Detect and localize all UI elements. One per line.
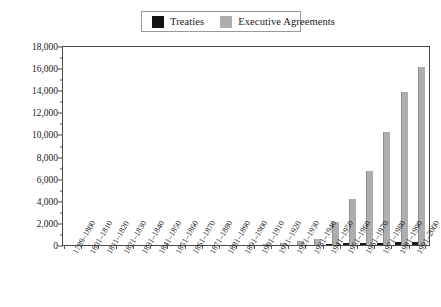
y-axis-tick-label: 4,000 <box>37 197 58 207</box>
bar-executive-agreements <box>418 67 425 246</box>
bar-group <box>186 47 203 246</box>
y-axis-tick-label: 6,000 <box>37 175 58 185</box>
bar-group <box>358 47 375 246</box>
bar-group <box>99 47 116 246</box>
bar-group <box>255 47 272 246</box>
x-axis-label-cell: 1911–1920 <box>271 250 288 307</box>
bar-group <box>82 47 99 246</box>
bar-chart: Treaties Executive Agreements 18,00016,0… <box>0 0 441 307</box>
bar-group <box>272 47 289 246</box>
x-axis-label-cell: 1831–1840 <box>133 250 150 307</box>
bar-group <box>375 47 392 246</box>
bar-group <box>289 47 306 246</box>
y-axis-tick-label: 2,000 <box>37 219 58 229</box>
x-axis-label-cell: 1801–1810 <box>81 250 98 307</box>
x-axis-label-cell: 1961–1970 <box>357 250 374 307</box>
bar-group <box>237 47 254 246</box>
x-axis-label-cell: 1811–1820 <box>98 250 115 307</box>
x-axis-label-cell: 1921–1930 <box>288 250 305 307</box>
legend-item-treaties: Treaties <box>152 16 204 28</box>
y-axis-tick-label: 14,000 <box>32 86 58 96</box>
x-axis-label-cell: 1891–1900 <box>236 250 253 307</box>
x-axis-label-cell: 1841–1850 <box>150 250 167 307</box>
x-axis-label-cell: 1881–1890 <box>219 250 236 307</box>
x-axis-label-cell: 1821–1830 <box>116 250 133 307</box>
y-axis-tick-label: 12,000 <box>32 108 58 118</box>
legend-swatch-executive-agreements <box>220 16 232 28</box>
x-axis-label-cell: 1871–1880 <box>202 250 219 307</box>
x-axis-label-cell: 1951–1960 <box>340 250 357 307</box>
x-axis-label-cell: 1941–1950 <box>323 250 340 307</box>
x-axis-label-cell: 1789–1800 <box>64 250 81 307</box>
x-axis-label-cell: 1971–1980 <box>374 250 391 307</box>
x-axis-label-cell: 1861–1870 <box>185 250 202 307</box>
bar-group <box>392 47 409 246</box>
legend-label-treaties: Treaties <box>170 16 204 27</box>
x-axis-label-cell: 1931–1940 <box>305 250 322 307</box>
bar-group <box>134 47 151 246</box>
bar-group <box>220 47 237 246</box>
bar-group <box>168 47 185 246</box>
chart-legend: Treaties Executive Agreements <box>141 11 301 32</box>
x-axis-labels: 1789–18001801–18101811–18201821–18301831… <box>62 250 428 307</box>
legend-label-executive-agreements: Executive Agreements <box>238 16 335 27</box>
bar-group <box>151 47 168 246</box>
bar-group <box>410 47 427 246</box>
x-axis-label-cell: 1901–1910 <box>254 250 271 307</box>
x-axis-label-cell: 1851–1860 <box>167 250 184 307</box>
y-axis-tick-label: 10,000 <box>32 130 58 140</box>
plot-area: 18,00016,00014,00012,00010,0008,0006,000… <box>62 46 430 246</box>
legend-swatch-treaties <box>152 16 164 28</box>
bar-group <box>65 47 82 246</box>
x-axis-label-cell: 1991–2000 <box>409 250 426 307</box>
bar-series-container <box>63 47 429 246</box>
bar-group <box>203 47 220 246</box>
bar-group <box>341 47 358 246</box>
bar-group <box>324 47 341 246</box>
bar-group <box>117 47 134 246</box>
bar-group <box>306 47 323 246</box>
y-axis-tick-label: 18,000 <box>32 42 58 52</box>
x-axis-label-cell: 1981–1990 <box>391 250 408 307</box>
legend-item-executive-agreements: Executive Agreements <box>220 16 335 28</box>
y-axis-tick-label: 8,000 <box>37 153 58 163</box>
y-axis-tick-label: 16,000 <box>32 64 58 74</box>
